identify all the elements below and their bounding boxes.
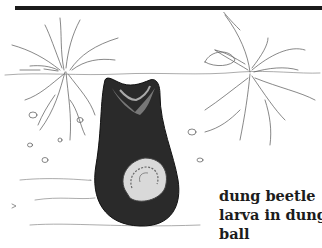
- caption-line: ball: [219, 224, 322, 243]
- figure-caption: dung beetle larva in dung ball: [219, 186, 322, 243]
- dung-ball-icon: [95, 78, 179, 226]
- caption-line: larva in dung: [219, 205, 322, 224]
- top-rule: [15, 6, 322, 10]
- mound-icon: [205, 52, 235, 66]
- roots-right-icon: [205, 74, 315, 145]
- grass-left-icon: [12, 18, 118, 71]
- roots-left-icon: [25, 72, 95, 140]
- caption-line: dung beetle: [219, 186, 322, 205]
- plant-right-icon: [215, 12, 305, 72]
